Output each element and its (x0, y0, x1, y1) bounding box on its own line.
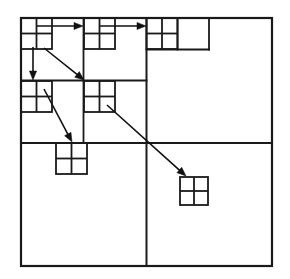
quadtree-figure: Quadtree subdivision with Z-order traver… (0, 0, 290, 279)
quadtree-diagram (0, 0, 290, 279)
